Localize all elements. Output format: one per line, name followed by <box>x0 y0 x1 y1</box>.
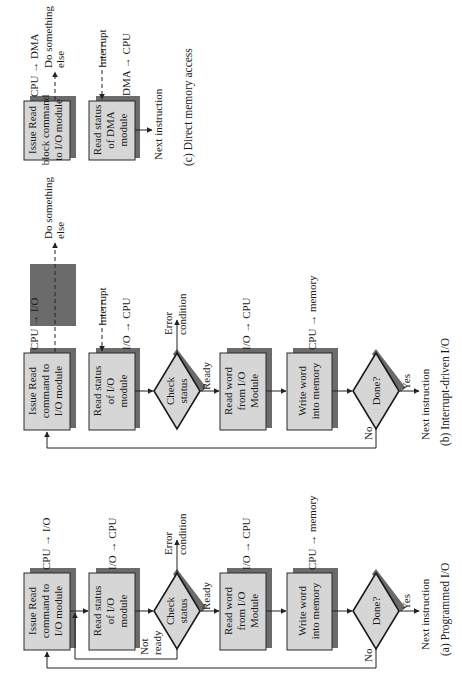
done-text: Done? <box>370 377 382 406</box>
caption-programmed-io: (a) Programmed I/O <box>439 563 452 656</box>
ready-text: Ready <box>200 581 212 610</box>
ready-text: Ready <box>200 361 212 390</box>
box-text: Read status <box>91 105 103 155</box>
box-text: to I/O module <box>52 99 64 161</box>
box-text: Read status <box>91 366 103 416</box>
box-read-word: Read word from I/O Module <box>220 568 272 650</box>
do-something-text: else <box>54 51 66 68</box>
loop-arrow-no <box>47 429 376 448</box>
not-ready-text: Not <box>138 639 150 656</box>
caption-interrupt-driven: (b) Interrupt-driven I/O <box>439 338 452 446</box>
box-issue-read-block: Issue Read block command to I/O module <box>24 94 76 165</box>
check-text: Check <box>164 596 176 625</box>
box-text: of I/O <box>104 378 116 405</box>
box-text: Issue Read <box>26 587 38 635</box>
flow-label-io-cpu: I/O → CPU <box>106 517 118 570</box>
box-text: into memory <box>309 362 321 419</box>
box-read-status-dma: Read status of DMA module <box>89 96 140 160</box>
do-something-text: Do something <box>42 176 54 239</box>
box-read-status: Read status of I/O module <box>89 348 140 430</box>
flow-label-io-cpu: I/O → CPU <box>240 517 252 570</box>
box-text: Module <box>248 374 260 408</box>
yes-text: Yes <box>400 594 412 610</box>
done-text: Done? <box>370 597 382 626</box>
box-text: I/O module <box>52 366 64 417</box>
diamond-done: Done? <box>353 349 405 429</box>
box-text: Read word <box>222 587 234 635</box>
check-text: Check <box>164 376 176 405</box>
do-something-text: Do something <box>42 5 54 68</box>
do-something-text: else <box>54 222 66 239</box>
flow-label-cpu-memory: CPU → memory <box>306 495 318 570</box>
box-text: Write word <box>296 586 308 636</box>
box-text: block command <box>39 94 51 165</box>
no-text: No <box>362 648 374 662</box>
box-text: module <box>117 113 129 146</box>
box-write-word: Write word into memory <box>287 568 338 650</box>
panel-programmed-io: Issue Read command to I/O module CPU → I… <box>24 495 452 668</box>
box-text: from I/O <box>235 592 247 631</box>
check-text: status <box>177 598 189 623</box>
box-text: Read status <box>91 586 103 636</box>
box-text: command to <box>39 583 51 638</box>
diamond-done: Done? <box>353 569 405 649</box>
panel-interrupt-driven: Issue Read command to I/O module CPU → I… <box>24 176 452 448</box>
next-instruction-text: Next instruction <box>419 368 431 440</box>
flow-label-cpu-io: CPU → I/O <box>28 297 40 350</box>
flow-label-io-cpu: I/O → CPU <box>120 297 132 350</box>
error-text: Error <box>162 311 174 335</box>
interrupt-text: Interrupt <box>96 30 108 68</box>
next-instruction-text: Next instruction <box>419 578 431 650</box>
box-text: of I/O <box>104 598 116 625</box>
yes-text: Yes <box>400 374 412 390</box>
flow-label-io-cpu: I/O → CPU <box>240 297 252 350</box>
error-text: condition <box>176 293 188 335</box>
box-text: command to <box>39 363 51 418</box>
box-text: Issue Read <box>26 367 38 415</box>
diamond-check-status: Check status <box>154 349 206 429</box>
box-read-status: Read status of I/O module <box>89 568 140 650</box>
io-techniques-flowchart: Issue Read block command to I/O module C… <box>0 0 462 687</box>
box-text: Module <box>248 594 260 628</box>
flow-label-dma-cpu: DMA → CPU <box>120 33 132 96</box>
box-text: into memory <box>309 582 321 639</box>
check-text: status <box>177 378 189 403</box>
error-text: Error <box>162 531 174 555</box>
box-text: Read word <box>222 367 234 415</box>
box-text: module <box>117 594 129 627</box>
box-text: from I/O <box>235 372 247 411</box>
box-text: Issue Read <box>26 106 38 154</box>
panel-dma: Issue Read block command to I/O module C… <box>24 5 195 166</box>
interrupt-text: Interrupt <box>96 288 108 326</box>
next-instruction-text: Next instruction <box>152 88 164 160</box>
box-issue-read: Issue Read command to I/O module <box>24 568 76 650</box>
box-text: module <box>117 374 129 407</box>
flow-label-cpu-memory: CPU → memory <box>306 275 318 350</box>
box-text: of DMA <box>104 111 116 149</box>
caption-dma: (c) Direct memory access <box>182 48 195 166</box>
box-read-word: Read word from I/O Module <box>220 348 272 430</box>
no-text: No <box>362 426 374 440</box>
box-text: I/O module <box>52 586 64 637</box>
error-text: condition <box>176 513 188 555</box>
box-text: Write word <box>296 366 308 416</box>
not-ready-text: ready <box>151 630 163 655</box>
box-write-word: Write word into memory <box>287 348 338 430</box>
flow-label-cpu-dma: CPU → DMA <box>28 33 40 97</box>
flow-label-cpu-io: CPU → I/O <box>40 517 52 570</box>
